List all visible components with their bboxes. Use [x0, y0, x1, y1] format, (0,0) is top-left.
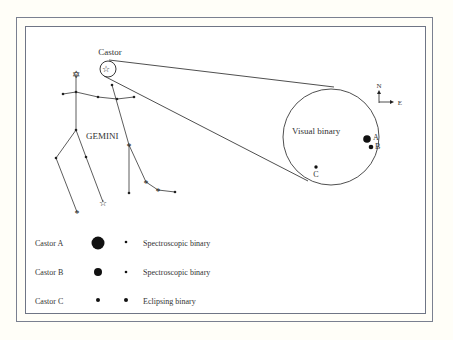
asterisk-star-icon: *	[144, 178, 149, 189]
castor-diagram: ☆ Castor ✡ ☆ * * * * GEMINI Visual binar…	[0, 0, 453, 340]
asterisk-star-icon: *	[127, 141, 132, 152]
legend-dot-secondary	[125, 241, 128, 244]
legend-type: Spectroscopic binary	[143, 268, 210, 277]
legend-name: Castor B	[35, 268, 63, 277]
star-b-label: B	[375, 142, 380, 151]
legend: Castor A Spectroscopic binary Castor B S…	[35, 237, 210, 307]
legend-type: Eclipsing binary	[143, 297, 196, 306]
castor-a-dot	[363, 135, 371, 143]
legend-dot-primary	[96, 298, 100, 302]
legend-dot-secondary	[124, 298, 128, 302]
gemini-label: GEMINI	[86, 131, 119, 141]
compass-icon	[377, 90, 394, 104]
legend-dot-secondary	[125, 271, 128, 274]
zoom-line-top	[109, 60, 334, 87]
pollux-star-icon: ✡	[72, 69, 80, 80]
star-c-label: C	[313, 170, 318, 179]
castor-star-icon: ☆	[102, 64, 110, 74]
castor-label: Castor	[98, 47, 122, 57]
legend-dot-primary	[94, 268, 102, 276]
star-icon: ☆	[99, 198, 107, 208]
star-a-label: A	[373, 133, 379, 142]
legend-type: Spectroscopic binary	[143, 239, 210, 248]
legend-name: Castor A	[35, 239, 63, 248]
legend-name: Castor C	[35, 297, 63, 306]
castor-b-dot	[369, 145, 374, 150]
zoom-line-bottom	[104, 76, 308, 181]
castor-c-dot	[314, 165, 317, 168]
compass-east-label: E	[398, 99, 402, 107]
legend-dot-primary	[92, 237, 105, 250]
asterisk-star-icon: *	[75, 208, 80, 219]
compass-north-label: N	[376, 82, 381, 90]
visual-binary-label: Visual binary	[292, 126, 341, 136]
asterisk-star-icon: *	[156, 186, 161, 197]
